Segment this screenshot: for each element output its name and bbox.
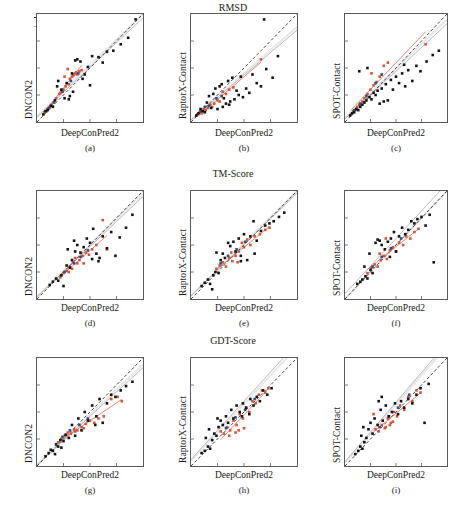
panel-letter-a: (a) bbox=[36, 143, 144, 153]
panel-letter-f: (f) bbox=[344, 318, 448, 328]
plot-area-h bbox=[190, 357, 298, 467]
y-axis-label-b: RaptorX-Contact bbox=[178, 52, 188, 119]
plot-area-a bbox=[36, 13, 144, 123]
x-axis-label-d: DeepConPred2 bbox=[36, 303, 144, 313]
y-axis-label-g: DNCON2 bbox=[24, 424, 34, 463]
y-axis-label-a: DNCON2 bbox=[24, 80, 34, 119]
y-axis-label-i: SPOT-Contact bbox=[332, 407, 342, 463]
x-axis-label-e: DeepConPred2 bbox=[190, 303, 298, 313]
x-axis-label-i: DeepConPred2 bbox=[344, 470, 448, 480]
plot-area-g bbox=[36, 357, 144, 467]
x-axis-label-b: DeepConPred2 bbox=[190, 128, 298, 138]
panel-letter-h: (h) bbox=[190, 485, 298, 495]
plot-area-c bbox=[344, 13, 448, 123]
plot-area-f bbox=[344, 190, 448, 300]
x-axis-label-f: DeepConPred2 bbox=[344, 303, 448, 313]
row-title-tmscore: TM-Score bbox=[163, 168, 303, 179]
plot-area-d bbox=[36, 190, 144, 300]
panel-letter-d: (d) bbox=[36, 318, 144, 328]
figure-root: RMSD TM-Score GDT-Score Diagonal De-Reg … bbox=[0, 0, 457, 518]
plot-area-i bbox=[344, 357, 448, 467]
x-axis-label-c: DeepConPred2 bbox=[344, 128, 448, 138]
row-title-gdtscore: GDT-Score bbox=[163, 335, 303, 346]
panel-letter-b: (b) bbox=[190, 143, 298, 153]
row-title-rmsd: RMSD bbox=[163, 2, 303, 13]
plot-area-b bbox=[190, 13, 298, 123]
panel-letter-g: (g) bbox=[36, 485, 144, 495]
x-axis-label-g: DeepConPred2 bbox=[36, 470, 144, 480]
y-axis-label-h: RaptorX-Contact bbox=[178, 396, 188, 463]
y-axis-label-e: RaptorX-Contact bbox=[178, 229, 188, 296]
y-axis-label-f: SPOT-Contact bbox=[332, 240, 342, 296]
x-axis-label-a: DeepConPred2 bbox=[36, 128, 144, 138]
panel-letter-i: (i) bbox=[344, 485, 448, 495]
panel-letter-e: (e) bbox=[190, 318, 298, 328]
y-axis-label-c: SPOT-Contact bbox=[332, 63, 342, 119]
panel-letter-c: (c) bbox=[344, 143, 448, 153]
x-axis-label-h: DeepConPred2 bbox=[190, 470, 298, 480]
plot-area-e bbox=[190, 190, 298, 300]
y-axis-label-d: DNCON2 bbox=[24, 257, 34, 296]
